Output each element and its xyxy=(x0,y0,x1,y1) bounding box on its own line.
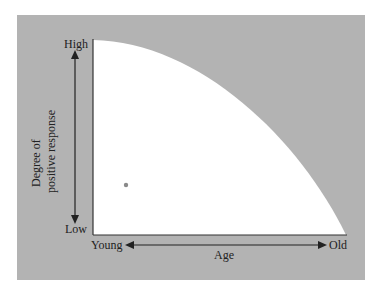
stray-dot xyxy=(124,183,128,187)
y-max-label: High xyxy=(64,37,88,51)
y-axis-title-line1: Degree of xyxy=(29,139,43,187)
chart: High Low Young Old Age Degree of positiv… xyxy=(0,0,386,294)
x-axis-title: Age xyxy=(214,248,234,262)
y-min-label: Low xyxy=(65,222,87,236)
y-axis-title-line2: positive response xyxy=(44,110,58,193)
x-max-label: Old xyxy=(329,238,347,252)
x-min-label: Young xyxy=(91,238,122,252)
